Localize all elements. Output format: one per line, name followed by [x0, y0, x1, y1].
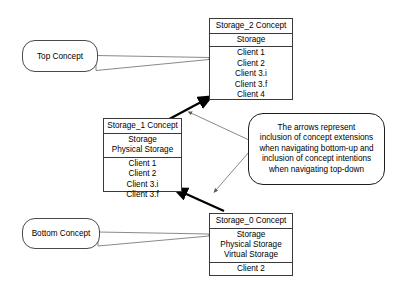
- arrow-storage0-to-storage1: [184, 193, 224, 211]
- extent-item: Client 3.i: [106, 180, 179, 190]
- concept-title-storage-0: Storage_0 Concept: [210, 214, 292, 229]
- extent-item: Client 4: [212, 90, 290, 100]
- extent-item: Client 2: [106, 169, 179, 179]
- annotation-line: when navigating bottom-up and: [259, 144, 373, 155]
- extent-item: Client 1: [212, 48, 290, 58]
- top-concept-pointer: [96, 56, 209, 71]
- intent-item: Physical Storage: [212, 240, 290, 250]
- extent-item: Client 2: [212, 264, 290, 274]
- extent-item: Client 1: [106, 159, 179, 169]
- extent-item: Client 2: [212, 59, 290, 69]
- intent-item: Storage: [212, 35, 290, 45]
- bottom-concept-pointer: [98, 232, 209, 246]
- callout-bottom-concept[interactable]: Bottom Concept: [22, 218, 100, 249]
- diagram-canvas: Storage_2 Concept Storage Client 1 Clien…: [0, 0, 399, 284]
- concept-intent-storage-2: Storage: [210, 34, 292, 48]
- extent-item: Client 3.i: [212, 69, 290, 79]
- concept-intent-storage-0: Storage Physical Storage Virtual Storage: [210, 229, 292, 264]
- callout-bottom-concept-label: Bottom Concept: [32, 229, 91, 238]
- concept-intent-storage-1: Storage Physical Storage: [104, 134, 181, 158]
- annotation-leader-lower: [216, 152, 249, 190]
- concept-box-storage-2[interactable]: Storage_2 Concept Storage Client 1 Clien…: [209, 18, 293, 100]
- callout-top-concept[interactable]: Top Concept: [22, 40, 98, 72]
- intent-item: Storage: [212, 230, 290, 240]
- annotation-line: inclusion of concept extensions: [259, 133, 373, 144]
- concept-box-storage-0[interactable]: Storage_0 Concept Storage Physical Stora…: [209, 213, 293, 276]
- extent-item: Client 3.f: [106, 190, 179, 200]
- annotation-line: inclusion of concept intentions: [259, 154, 373, 165]
- concept-box-storage-1[interactable]: Storage_1 Concept Storage Physical Stora…: [103, 118, 182, 192]
- annotation-text: The arrows represent inclusion of concep…: [253, 123, 379, 176]
- concept-extent-storage-1: Client 1 Client 2 Client 3.i Client 3.f: [104, 158, 181, 202]
- annotation-leader-upper: [191, 113, 249, 140]
- callout-top-concept-label: Top Concept: [37, 52, 83, 61]
- annotation-arrow-legend[interactable]: The arrows represent inclusion of concep…: [248, 113, 385, 185]
- intent-item: Virtual Storage: [212, 250, 290, 260]
- annotation-line: The arrows represent: [259, 123, 373, 134]
- concept-title-storage-1: Storage_1 Concept: [104, 119, 181, 134]
- extent-item: Client 3.f: [212, 80, 290, 90]
- concept-extent-storage-2: Client 1 Client 2 Client 3.i Client 3.f …: [210, 47, 292, 102]
- intent-item: Storage: [106, 135, 179, 145]
- intent-item: Physical Storage: [106, 145, 179, 155]
- concept-title-storage-2: Storage_2 Concept: [210, 19, 292, 34]
- concept-extent-storage-0: Client 2: [210, 263, 292, 276]
- annotation-line: when navigating top-down: [259, 165, 373, 176]
